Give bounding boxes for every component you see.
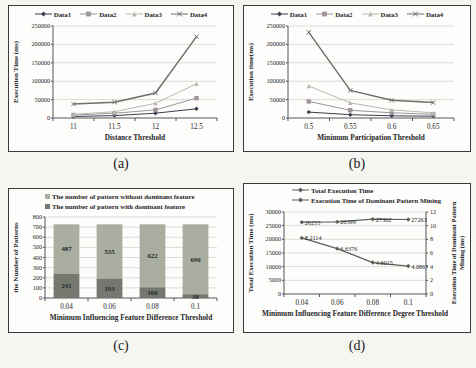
svg-text:0.06: 0.06 [331, 299, 344, 307]
chart-d-plot: 0500010000150002000025000300000246810120… [244, 184, 470, 332]
svg-text:0.5: 0.5 [304, 123, 313, 131]
svg-text:Execution Time (ms): Execution Time (ms) [12, 40, 20, 103]
chart-a-data4-line [74, 37, 197, 104]
svg-text:6.6376: 6.6376 [340, 245, 357, 252]
legend-row: Total Execution Time [292, 186, 373, 194]
legend-item-data2: Data2 [80, 10, 116, 18]
svg-text:300: 300 [33, 264, 42, 271]
svg-text:535: 535 [104, 248, 115, 255]
svg-text:150000: 150000 [266, 59, 285, 66]
svg-text:26255: 26255 [305, 219, 320, 226]
svg-text:10: 10 [430, 222, 436, 229]
legend-row: The number of pattern without dominant f… [45, 193, 195, 200]
legend-label: Execution Time of Dominant Pattern Minin… [311, 197, 441, 204]
svg-text:0: 0 [430, 290, 433, 297]
legend-item-data1: Data1 [35, 10, 71, 18]
svg-text:250000: 250000 [31, 22, 50, 29]
legend-item-total-execution-time: Total Execution Time [292, 186, 373, 194]
subplot-b: 0500001000001500002000002500000.50.550.6… [243, 5, 471, 152]
svg-text:2: 2 [430, 276, 433, 283]
svg-text:800: 800 [33, 213, 42, 220]
svg-text:600: 600 [33, 233, 42, 240]
caption-d: (d) [243, 338, 471, 354]
svg-text:0.6: 0.6 [387, 123, 396, 131]
legend-marker-icon [126, 10, 143, 18]
legend-swatch-icon [45, 204, 50, 209]
legend-item-data2: Data2 [316, 10, 352, 18]
svg-text:26399: 26399 [340, 218, 355, 225]
legend-label: Data2 [99, 11, 116, 18]
chart-a-data2-line [74, 98, 197, 115]
svg-text:0: 0 [278, 290, 281, 297]
svg-text:0: 0 [282, 114, 285, 121]
legend-label: Data3 [381, 11, 398, 18]
legend-item-data3: Data3 [362, 10, 398, 18]
legend-item-data3: Data3 [126, 10, 162, 18]
legend-row: The number of pattern with dominant feat… [45, 203, 185, 210]
svg-text:0.04: 0.04 [295, 299, 308, 307]
svg-text:20000: 20000 [266, 235, 281, 242]
subplot-a: 0500001000001500002000002500001111.51212… [8, 5, 234, 152]
svg-text:0.06: 0.06 [103, 303, 116, 311]
svg-text:30000: 30000 [266, 208, 281, 215]
svg-text:Total Execution Time (ms): Total Execution Time (ms) [247, 213, 255, 293]
subplot-c: 01002003004005006007008004872410.0453519… [8, 188, 234, 333]
svg-text:0.55: 0.55 [344, 123, 357, 131]
svg-text:0.65: 0.65 [427, 123, 440, 131]
svg-text:150000: 150000 [31, 59, 50, 66]
svg-text:0.04: 0.04 [60, 303, 73, 311]
svg-text:38: 38 [192, 293, 199, 300]
svg-text:0.08: 0.08 [366, 299, 379, 307]
svg-text:12: 12 [430, 208, 436, 215]
legend-marker-icon [80, 10, 97, 18]
legend-label: Data4 [426, 11, 443, 18]
chart-b-data2-line [309, 101, 434, 114]
svg-text:Execution Time of Dominant Pat: Execution Time of Dominant Pattern [450, 201, 457, 304]
chart-c-plot: 01002003004005006007008004872410.0453519… [9, 189, 233, 332]
svg-text:200: 200 [33, 274, 42, 281]
svg-text:8: 8 [430, 235, 433, 242]
svg-text:100000: 100000 [266, 77, 285, 84]
svg-text:Minimum Influencing Feature Di: Minimum Influencing Feature Difference T… [50, 313, 212, 322]
caption-c: (c) [8, 338, 234, 354]
subplot-d: 0500010000150002000025000300000246810120… [243, 183, 471, 333]
svg-text:250000: 250000 [266, 22, 285, 29]
legend-item-the-number-of-pattern-with-dominant-feat: The number of pattern with dominant feat… [45, 203, 185, 210]
svg-text:Mining (ms): Mining (ms) [458, 236, 466, 270]
legend-label: Data4 [190, 11, 207, 18]
legend-row: Data1Data2Data3Data4 [9, 10, 233, 18]
caption-b: (b) [243, 156, 471, 172]
caption-a: (a) [8, 156, 234, 172]
svg-text:Minimum Participation Threshol: Minimum Participation Threshold [317, 133, 425, 142]
svg-text:487: 487 [61, 245, 72, 252]
svg-text:100000: 100000 [31, 77, 50, 84]
svg-text:193: 193 [104, 285, 115, 292]
legend-label: Data1 [290, 11, 307, 18]
legend-marker-icon [35, 10, 52, 18]
svg-text:5000: 5000 [269, 276, 281, 283]
legend-item-execution-time-of-dominant-pattern-minin: Execution Time of Dominant Pattern Minin… [292, 196, 441, 204]
svg-text:Minimum Influencing Feature Di: Minimum Influencing Feature Difference D… [262, 309, 448, 318]
svg-text:100: 100 [33, 284, 42, 291]
svg-text:25000: 25000 [266, 222, 281, 229]
svg-text:0: 0 [39, 294, 42, 301]
svg-text:the Number of Patterns: the Number of Patterns [12, 222, 20, 293]
svg-text:241: 241 [61, 282, 72, 289]
svg-text:Distance Threshold: Distance Threshold [105, 133, 165, 142]
svg-text:50000: 50000 [35, 96, 50, 103]
legend-row: Execution Time of Dominant Pattern Minin… [292, 196, 441, 204]
svg-text:27362: 27362 [376, 216, 391, 223]
chart-a-plot: 0500001000001500002000002500001111.51212… [9, 6, 233, 151]
svg-text:500: 500 [33, 243, 42, 250]
svg-text:6: 6 [430, 249, 433, 256]
legend-marker-icon [362, 10, 379, 18]
chart-b-plot: 0500001000001500002000002500000.50.550.6… [244, 6, 470, 151]
svg-text:10000: 10000 [266, 263, 281, 270]
legend-label: Data1 [54, 11, 71, 18]
svg-text:12: 12 [152, 123, 160, 131]
svg-text:200000: 200000 [266, 40, 285, 47]
legend-item-data4: Data4 [171, 10, 207, 18]
svg-text:0.08: 0.08 [146, 303, 159, 311]
legend-item-data1: Data1 [271, 10, 307, 18]
legend-item-data4: Data4 [407, 10, 443, 18]
